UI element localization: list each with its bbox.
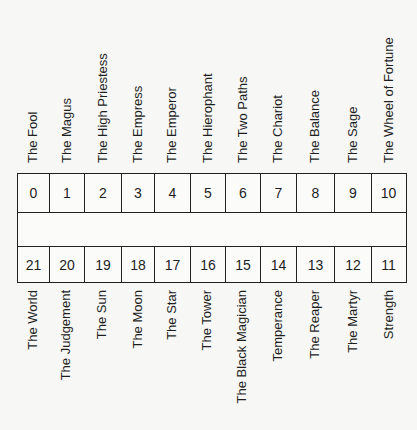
top-label-slot: The Wheel of Fortune	[371, 0, 407, 163]
arcana-label: The Empress	[131, 86, 145, 163]
number-cell: 9	[335, 174, 372, 212]
arcana-label: The Balance	[308, 90, 322, 163]
top-label-slot: The Chariot	[260, 0, 296, 163]
number-board: 0 1 2 3 4 5 6 7 8 9 10 21 20 19 18 17 16…	[17, 173, 407, 283]
number-cell: 2	[85, 174, 122, 212]
arcana-label: The High Priestess	[96, 53, 110, 163]
number-cell: 10	[372, 174, 405, 212]
arcana-label: The Judgement	[60, 290, 74, 380]
bottom-label-slot: The Martyr	[334, 290, 371, 430]
arcana-label: The Black Magician	[236, 290, 250, 403]
bottom-number-row: 21 20 19 18 17 16 15 14 13 12 11	[18, 246, 406, 282]
arcana-label: The Martyr	[346, 290, 360, 353]
number-cell: 6	[226, 174, 261, 212]
top-label-slot: The Emperor	[154, 0, 190, 163]
arcana-label: Temperance	[271, 290, 285, 362]
arcana-label: The Wheel of Fortune	[382, 37, 396, 163]
number-cell: 0	[18, 174, 50, 212]
number-cell: 4	[155, 174, 191, 212]
number-cell: 21	[18, 247, 50, 282]
arcana-label: The Reaper	[308, 290, 322, 359]
arcana-label: The Sun	[96, 290, 110, 339]
bottom-label-slot: The Moon	[121, 290, 154, 430]
bottom-label-slot: The Reaper	[296, 290, 334, 430]
bottom-label-slot: The Black Magician	[225, 290, 260, 430]
number-cell: 20	[50, 247, 85, 282]
arcana-label: The Star	[165, 290, 179, 340]
arcana-label: The World	[26, 290, 40, 350]
arcana-label: The Fool	[26, 112, 40, 163]
number-cell: 5	[191, 174, 226, 212]
arcana-label: Strength	[382, 290, 396, 339]
bottom-label-slot: The Sun	[84, 290, 121, 430]
bottom-labels: The World The Judgement The Sun The Moon…	[17, 290, 407, 430]
top-label-slot: The Two Paths	[225, 0, 260, 163]
arcana-label: The Sage	[346, 107, 360, 163]
number-cell: 16	[191, 247, 226, 282]
top-label-slot: The Fool	[17, 0, 49, 163]
arcana-label: The Magus	[60, 98, 74, 163]
number-cell: 15	[226, 247, 261, 282]
bottom-label-slot: Strength	[371, 290, 407, 430]
arcana-label: The Hierophant	[201, 73, 215, 163]
bottom-label-slot: The World	[17, 290, 49, 430]
top-label-slot: The Hierophant	[190, 0, 225, 163]
bottom-label-slot: Temperance	[260, 290, 296, 430]
tarot-arcana-diagram: The Fool The Magus The High Priestess Th…	[0, 0, 417, 430]
number-cell: 11	[372, 247, 405, 282]
top-label-slot: The Magus	[49, 0, 84, 163]
top-label-slot: The High Priestess	[84, 0, 121, 163]
number-cell: 1	[50, 174, 85, 212]
number-cell: 12	[335, 247, 372, 282]
top-label-slot: The Sage	[334, 0, 371, 163]
number-cell: 18	[122, 247, 155, 282]
arcana-label: The Two Paths	[236, 77, 250, 163]
top-number-row: 0 1 2 3 4 5 6 7 8 9 10	[18, 174, 406, 213]
number-cell: 7	[261, 174, 297, 212]
number-cell: 19	[85, 247, 122, 282]
number-cell: 8	[297, 174, 335, 212]
top-label-slot: The Empress	[121, 0, 154, 163]
arcana-label: The Chariot	[271, 95, 285, 163]
arcana-label: The Moon	[131, 290, 145, 349]
number-cell: 3	[122, 174, 155, 212]
top-label-slot: The Balance	[296, 0, 334, 163]
top-labels: The Fool The Magus The High Priestess Th…	[17, 0, 407, 163]
arcana-label: The Tower	[201, 290, 215, 350]
bottom-label-slot: The Judgement	[49, 290, 84, 430]
number-cell: 13	[297, 247, 335, 282]
arcana-label: The Emperor	[165, 87, 179, 163]
number-cell: 17	[155, 247, 191, 282]
bottom-label-slot: The Star	[154, 290, 190, 430]
number-cell: 14	[261, 247, 297, 282]
bottom-label-slot: The Tower	[190, 290, 225, 430]
